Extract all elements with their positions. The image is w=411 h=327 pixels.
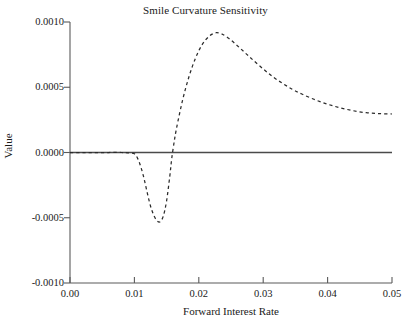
y-tick-label: 0.0010 — [6, 17, 64, 27]
x-tick-label: 0.04 — [306, 288, 350, 299]
x-tick-marks — [70, 277, 392, 283]
y-tick-label: 0.0005 — [6, 82, 64, 92]
y-tick-label: -0.0005 — [6, 213, 64, 223]
y-tick-label-wrap-3: -0.0005 — [0, 213, 64, 223]
x-tick-label: 0.03 — [241, 288, 285, 299]
y-tick-label: 0.0000 — [6, 148, 64, 158]
chart-figure: Smile Curvature Sensitivity 0.0010 0.000… — [0, 0, 411, 327]
x-axis-label: Forward Interest Rate — [70, 305, 392, 317]
y-axis-label: Value — [2, 116, 14, 176]
y-tick-label-wrap-0: 0.0010 — [0, 17, 64, 27]
x-tick-label: 0.05 — [370, 288, 411, 299]
x-tick-label: 0.01 — [112, 288, 156, 299]
data-series-line — [70, 33, 392, 222]
y-tick-marks — [64, 22, 70, 283]
y-tick-label-wrap-1: 0.0005 — [0, 82, 64, 92]
y-tick-label-wrap-4: -0.0010 — [0, 278, 64, 288]
x-tick-label: 0.02 — [177, 288, 221, 299]
x-tick-label: 0.00 — [48, 288, 92, 299]
y-tick-label: -0.0010 — [6, 278, 64, 288]
